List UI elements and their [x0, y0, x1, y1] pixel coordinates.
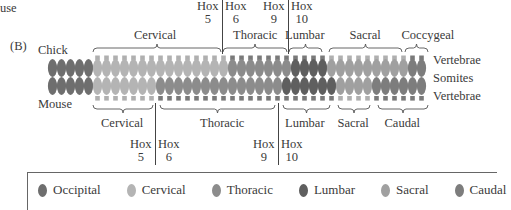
vertebra	[293, 96, 298, 101]
region-label-caudal: Caudal	[385, 117, 420, 130]
somite	[399, 59, 408, 77]
legend-label: Occipital	[53, 182, 101, 198]
hox-label-9: Hox9	[253, 138, 275, 164]
somite	[282, 59, 291, 77]
somite	[219, 77, 228, 95]
somite	[48, 77, 57, 95]
somite	[93, 59, 102, 77]
somite	[300, 59, 309, 77]
somite	[309, 77, 318, 95]
region-label-sacral: Sacral	[338, 117, 369, 130]
somite	[363, 59, 372, 77]
somite	[291, 77, 300, 95]
hox-boundary-line	[222, 0, 223, 54]
somite	[318, 77, 327, 95]
legend-label: Caudal	[470, 182, 507, 198]
somite	[183, 77, 192, 95]
region-label-thoracic: Thoracic	[200, 117, 244, 130]
somite	[192, 59, 201, 77]
vertebra	[356, 96, 361, 101]
region-brace	[289, 44, 322, 52]
hox-label-9: Hox9	[263, 0, 285, 26]
somite	[165, 59, 174, 77]
legend-swatch-icon	[299, 184, 308, 197]
region-label-coccygeal: Coccygeal	[402, 29, 455, 42]
legend-label: Sacral	[396, 182, 428, 198]
somite	[138, 59, 147, 77]
hox-boundary-line	[288, 0, 289, 54]
vertebra	[329, 96, 334, 101]
somite	[75, 77, 84, 95]
somite	[102, 77, 111, 95]
legend-item-occipital: Occipital	[38, 182, 101, 198]
vertebra	[347, 96, 352, 101]
vertebra	[203, 96, 208, 101]
vertebra	[257, 96, 262, 101]
somite	[345, 59, 354, 77]
vertebra	[383, 96, 388, 101]
somite	[165, 77, 174, 95]
somite	[390, 59, 399, 77]
vertebra	[104, 96, 109, 101]
hox-label-6: Hox6	[225, 0, 247, 26]
somite	[327, 77, 336, 95]
somite	[129, 59, 138, 77]
somite	[273, 59, 282, 77]
somite	[57, 59, 66, 77]
somite	[156, 77, 165, 95]
somite	[183, 59, 192, 77]
somite	[327, 59, 336, 77]
region-brace	[160, 105, 275, 113]
vertebra	[158, 96, 163, 101]
somite	[354, 59, 363, 77]
vertebra	[212, 96, 217, 101]
somite	[381, 77, 390, 95]
vertebra	[167, 96, 172, 101]
somite	[147, 77, 156, 95]
region-brace	[338, 105, 370, 113]
hox-label-6: Hox6	[158, 138, 180, 164]
region-label-cervical: Cervical	[134, 29, 176, 42]
somite	[237, 77, 246, 95]
somite	[84, 59, 93, 77]
region-label-sacral: Sacral	[350, 29, 381, 42]
vertebra	[275, 96, 280, 101]
hox-label-5: Hox5	[130, 138, 152, 164]
hox-boundary-line	[278, 103, 279, 165]
somite	[399, 77, 408, 95]
somite	[111, 77, 120, 95]
legend: OccipitalCervicalThoracicLumbarSacralCau…	[27, 172, 497, 210]
somite	[246, 59, 255, 77]
somite	[381, 59, 390, 77]
vertebra	[140, 96, 145, 101]
vertebra	[284, 96, 289, 101]
legend-swatch-icon	[455, 184, 464, 197]
somite	[84, 77, 93, 95]
region-brace	[405, 44, 428, 52]
hox-label-10: Hox10	[291, 0, 313, 26]
somite	[255, 59, 264, 77]
vertebra	[365, 96, 370, 101]
legend-item-caudal: Caudal	[455, 182, 507, 198]
somite	[264, 59, 273, 77]
region-label-cervical: Cervical	[101, 117, 143, 130]
vertebra	[392, 96, 397, 101]
vertebra	[302, 96, 307, 101]
somite	[309, 59, 318, 77]
somite	[93, 77, 102, 95]
somite	[408, 59, 417, 77]
legend-label: Lumbar	[314, 182, 355, 198]
vertebra	[122, 96, 127, 101]
vertebra	[131, 96, 136, 101]
somite	[345, 77, 354, 95]
somite	[300, 77, 309, 95]
somite	[201, 59, 210, 77]
hox-boundary-line	[155, 103, 156, 165]
legend-item-lumbar: Lumbar	[299, 182, 355, 198]
vertebra	[266, 96, 271, 101]
vertebra	[176, 96, 181, 101]
region-label-lumbar: Lumbar	[285, 117, 325, 130]
legend-swatch-icon	[381, 184, 390, 197]
somite	[48, 59, 57, 77]
somite	[291, 59, 300, 77]
